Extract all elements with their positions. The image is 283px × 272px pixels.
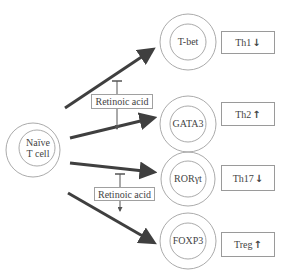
naive-label-line2: T cell <box>21 148 55 159</box>
up-arrow-icon: ↑ <box>254 239 262 250</box>
outcome-th2-label: Th2 <box>235 109 251 120</box>
retinoic-acid-box-1: Retinoic acid <box>91 94 153 109</box>
outcome-th17-label: Th17 <box>233 173 254 184</box>
gata3-label: GATA3 <box>168 118 208 129</box>
retinoic-acid-box-2: Retinoic acid <box>94 187 155 201</box>
retinoic-acid-1-inhibition <box>112 81 122 94</box>
outcome-th1-box: Th1 ↓ <box>221 31 275 54</box>
outcome-th17-box: Th17 ↓ <box>221 165 275 191</box>
arrow-to-rorgt <box>70 163 153 172</box>
tbet-label: T-bet <box>168 36 208 47</box>
down-arrow-icon: ↓ <box>255 173 263 184</box>
naive-label-line1: Naïve <box>21 137 55 148</box>
outcome-th2-box: Th2 ↑ <box>221 102 275 126</box>
foxp3-label: FOXP3 <box>168 235 208 246</box>
rorgt-label: RORγt <box>168 173 208 184</box>
naive-t-cell-label: Naïve T cell <box>21 137 55 159</box>
retinoic-acid-2-inhibition <box>115 174 125 187</box>
arrow-to-gata3 <box>70 118 153 138</box>
outcome-treg-label: Treg <box>234 239 253 250</box>
down-arrow-icon: ↓ <box>252 37 260 48</box>
up-arrow-icon: ↑ <box>252 109 260 120</box>
outcome-th1-label: Th1 <box>235 37 251 48</box>
outcome-treg-box: Treg ↑ <box>221 232 275 257</box>
